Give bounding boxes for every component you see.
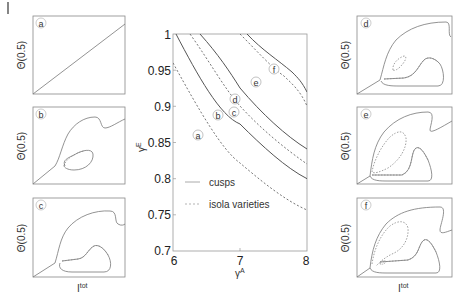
panel-e-ylabel: Θ(0.5) bbox=[340, 132, 351, 160]
ytick-0.85: 0.85 bbox=[148, 136, 172, 150]
main-ylabel: γE bbox=[135, 142, 147, 152]
panel-d-ylabel: Θ(0.5) bbox=[340, 41, 351, 69]
panel-f-xlabel: Itot bbox=[398, 282, 409, 294]
main-plot: 1 0.95 0.9 0.85 0.8 0.75 0.7 6 7 8 γA γE bbox=[135, 28, 310, 279]
xtick-6: 6 bbox=[171, 254, 178, 268]
panel-f: f Θ(0.5) Itot bbox=[340, 198, 452, 294]
ytick-0.7: 0.7 bbox=[154, 244, 171, 258]
region-labels: a b c d e f bbox=[193, 64, 279, 141]
panel-c: c Θ(0.5) Itot bbox=[16, 198, 125, 294]
panel-d-label: d bbox=[363, 19, 368, 29]
panel-b-label: b bbox=[38, 110, 43, 120]
legend-cusps: cusps bbox=[209, 177, 235, 188]
panel-a-ylabel: Θ(0.5) bbox=[16, 41, 27, 69]
main-xlabel: γA bbox=[235, 267, 245, 279]
panel-a-label: a bbox=[38, 19, 43, 29]
ytick-0.8: 0.8 bbox=[154, 172, 171, 186]
ytick-0.95: 0.95 bbox=[148, 64, 172, 78]
xtick-8: 8 bbox=[303, 254, 310, 268]
xtick-7: 7 bbox=[237, 254, 244, 268]
panel-e-label: e bbox=[363, 110, 368, 120]
region-c: c bbox=[232, 108, 237, 118]
figure: a Θ(0.5) b Θ(0.5) c Θ(0.5) Itot d Θ(0.5) bbox=[0, 0, 465, 305]
ytick-0.9: 0.9 bbox=[154, 100, 171, 114]
isola-curve-2 bbox=[190, 34, 307, 164]
region-a: a bbox=[195, 131, 200, 141]
panel-c-label: c bbox=[39, 201, 44, 211]
region-b: b bbox=[215, 111, 220, 121]
cusp-curve-2 bbox=[200, 34, 307, 149]
legend-isola: isola varieties bbox=[209, 199, 270, 210]
region-e: e bbox=[253, 78, 258, 88]
legend: cusps isola varieties bbox=[185, 177, 270, 210]
panel-f-ylabel: Θ(0.5) bbox=[340, 224, 351, 252]
panel-c-ylabel: Θ(0.5) bbox=[16, 224, 27, 252]
cusp-curve-1 bbox=[176, 34, 307, 179]
panel-e: e Θ(0.5) bbox=[340, 107, 452, 184]
panel-a-curve bbox=[33, 24, 125, 94]
panel-c-xlabel: Itot bbox=[77, 282, 88, 294]
ytick-0.75: 0.75 bbox=[148, 208, 172, 222]
panel-b-ylabel: Θ(0.5) bbox=[16, 132, 27, 160]
panel-a: a Θ(0.5) bbox=[16, 16, 125, 94]
panel-b: b Θ(0.5) bbox=[16, 107, 125, 184]
region-d: d bbox=[232, 95, 237, 105]
panel-d: d Θ(0.5) bbox=[340, 16, 452, 94]
ytick-1: 1 bbox=[164, 28, 171, 42]
